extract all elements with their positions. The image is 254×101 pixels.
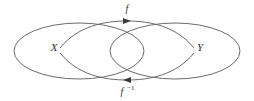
set-x-label: X (50, 41, 59, 53)
diagram-canvas: X Y f f −1 (0, 0, 254, 101)
set-y-label: Y (197, 41, 205, 53)
arrow-right-icon (123, 18, 131, 24)
map-inverse-label: f −1 (121, 84, 135, 97)
map-inverse-label-superscript: −1 (127, 84, 135, 92)
map-forward-arc (60, 21, 194, 48)
map-forward-label: f (126, 3, 130, 14)
set-y-ellipse (110, 23, 240, 79)
set-x-ellipse (14, 23, 144, 79)
map-inverse-arc (60, 53, 194, 80)
set-mapping-diagram: X Y f f −1 (0, 0, 254, 101)
arrow-left-icon (123, 77, 131, 83)
map-inverse-label-base: f (121, 86, 125, 97)
